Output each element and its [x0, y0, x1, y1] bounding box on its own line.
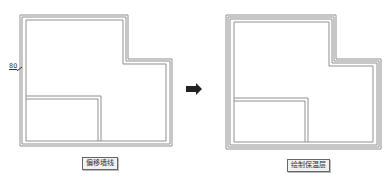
- right-outer-wall-line: [230, 19, 377, 145]
- left-outer-wall-line: [20, 15, 172, 146]
- dimension-label: 80: [9, 63, 17, 70]
- left-inner-wall-line: [26, 20, 166, 141]
- left-room-wall-outer: [26, 96, 101, 141]
- right-caption: 绘制保温层: [287, 159, 330, 172]
- left-caption: 偏移墙线: [82, 157, 118, 170]
- right-outer-insulation-line-2: [228, 17, 379, 147]
- right-room-wall-outer: [234, 98, 308, 142]
- right-arrow-icon: [186, 83, 202, 95]
- left-floor-plan: [20, 15, 172, 146]
- left-room-wall-inner: [26, 99, 98, 141]
- right-inner-wall-line: [234, 22, 373, 142]
- right-room-wall-inner: [234, 101, 305, 142]
- left-outer-wall-line-2: [22, 17, 170, 144]
- floor-plan-diagram: [0, 0, 388, 182]
- right-floor-plan: [226, 15, 381, 149]
- right-outer-insulation-line: [226, 15, 381, 149]
